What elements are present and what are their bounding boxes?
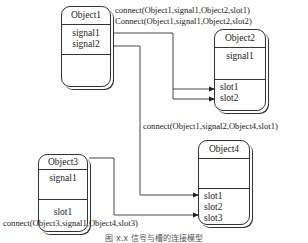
- object3-signal1: signal1: [39, 173, 87, 184]
- object1-signal2: signal2: [62, 39, 110, 50]
- object4-title: Object4: [199, 141, 249, 159]
- object4-box: Object4 slot1 slot2 slot3: [198, 140, 250, 225]
- object3-signals: signal1: [39, 170, 87, 200]
- object1-title: Object1: [62, 7, 110, 25]
- object4-slots: slot1 slot2 slot3: [199, 189, 249, 225]
- object1-slots: [62, 55, 110, 87]
- wire-o3s1-o4slot3: [89, 158, 198, 215]
- object2-title: Object2: [215, 30, 265, 48]
- wire-o1s1-o2slot1: [111, 33, 214, 89]
- connection-label-4: connect(Object3,signal1,Object4,slot3): [3, 218, 138, 228]
- connection-label-1: connect(Object1,signal1,Object2,slot1): [115, 5, 250, 15]
- object3-slot1: slot1: [39, 207, 87, 218]
- object2-signals: signal1: [215, 48, 265, 80]
- object3-title: Object3: [39, 155, 87, 170]
- connection-label-3: connect(Object1,signal2,Object4,slot1): [143, 121, 278, 131]
- object4-slot3: slot3: [204, 213, 249, 224]
- object2-slot1: slot1: [220, 82, 265, 93]
- object1-signal1: signal1: [62, 28, 110, 39]
- object2-slot2: slot2: [220, 93, 265, 104]
- object2-signal1: signal1: [215, 51, 265, 62]
- object1-box: Object1 signal1 signal2: [61, 6, 111, 87]
- object2-slots: slot1 slot2: [215, 80, 265, 111]
- figure-caption: 图 x.x 信号与槽的连接模型: [0, 232, 308, 243]
- object2-box: Object2 signal1 slot1 slot2: [214, 29, 266, 111]
- object4-slot2: slot2: [204, 202, 249, 213]
- wire-o1s1-o2slot2: [173, 89, 214, 99]
- object1-signals: signal1 signal2: [62, 25, 110, 55]
- object4-signals: [199, 159, 249, 189]
- connection-label-2: Connect(Object1,signal1,Object2,slot2): [115, 16, 252, 26]
- object4-slot1: slot1: [204, 191, 249, 202]
